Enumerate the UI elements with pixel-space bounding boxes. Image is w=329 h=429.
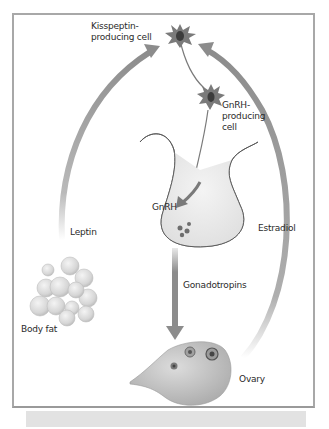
ovary-label: Ovary <box>239 374 265 385</box>
body-fat-label: Body fat <box>21 324 57 335</box>
gnrh-label: GnRH <box>152 202 177 213</box>
gonadotropins-label: Gonadotropins <box>183 280 246 291</box>
kisspeptin-cell-icon <box>165 24 196 48</box>
leptin-label: Leptin <box>70 227 97 238</box>
kisspeptin-cell-label: Kisspeptin- producing cell <box>91 21 152 43</box>
estradiol-label: Estradiol <box>258 223 296 234</box>
body-fat-icon <box>30 257 97 326</box>
gonadotropins-arrow <box>166 248 184 340</box>
pituitary-gland-icon <box>140 134 258 247</box>
gnrh-cell-label: GnRH- producing cell <box>222 100 265 133</box>
kisspeptin-axon <box>180 40 204 88</box>
gnrh-cell-icon <box>197 84 225 110</box>
ovary-icon <box>130 342 231 406</box>
leptin-arrow <box>62 44 160 240</box>
diagram-artwork <box>0 0 329 429</box>
